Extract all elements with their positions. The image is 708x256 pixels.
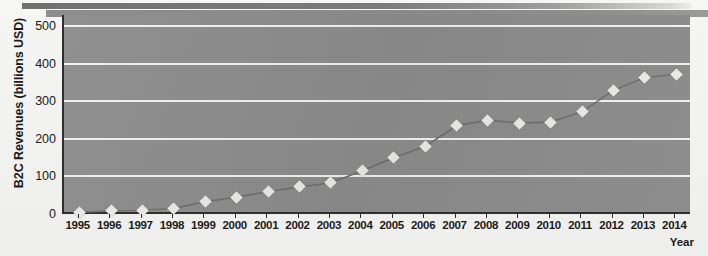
x-tick-2011 — [580, 214, 581, 218]
x-tick-1996 — [109, 214, 110, 218]
x-tick-2004 — [360, 214, 361, 218]
x-tick-2013 — [643, 214, 644, 218]
x-tick-1999 — [203, 214, 204, 218]
x-tick-2009 — [517, 214, 518, 218]
x-tick-1995 — [78, 214, 79, 218]
x-tick-1998 — [172, 214, 173, 218]
x-tick-2003 — [329, 214, 330, 218]
x-tick-1997 — [141, 214, 142, 218]
chart-figure: 0100200300400500 B2C Revenues (billions … — [0, 0, 708, 256]
x-tick-2010 — [549, 214, 550, 218]
x-tick-2007 — [455, 214, 456, 218]
x-tick-2006 — [423, 214, 424, 218]
plot-area — [62, 15, 690, 214]
x-tick-2008 — [486, 214, 487, 218]
x-tick-2014 — [674, 214, 675, 218]
x-tick-2000 — [235, 214, 236, 218]
x-tick-2001 — [266, 214, 267, 218]
x-axis-title: Year — [670, 236, 694, 248]
x-tick-label-2014: 2014 — [654, 219, 694, 231]
y-axis-title: B2C Revenues (billions USD) — [12, 0, 26, 208]
x-tick-2002 — [298, 214, 299, 218]
x-tick-2005 — [392, 214, 393, 218]
x-tick-2012 — [612, 214, 613, 218]
series-line — [64, 15, 692, 214]
y-tick-label-0: 0 — [14, 208, 56, 220]
